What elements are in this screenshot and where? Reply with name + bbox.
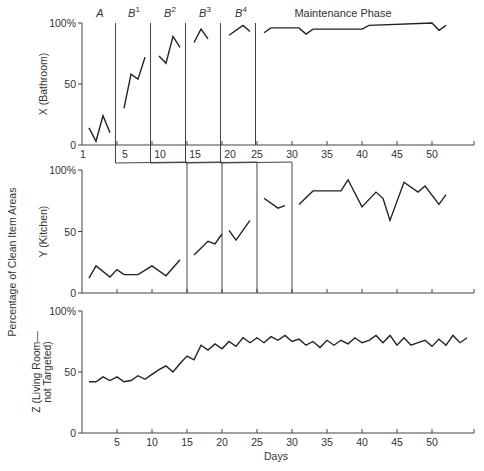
data-series-B1 — [194, 234, 222, 255]
x-tick-label: 45 — [391, 436, 403, 448]
phase-label: Maintenance Phase — [294, 7, 391, 19]
x-tick-label: 30 — [286, 148, 298, 160]
y-tick-label: 100% — [49, 305, 76, 317]
y-tick-label: 0 — [70, 287, 76, 299]
phase-label: B3 — [199, 5, 211, 19]
data-series-Maintenance — [299, 180, 446, 221]
data-series-B3 — [194, 29, 208, 42]
panel-label: Y (Kitchen) — [37, 206, 49, 258]
x-tick-label: 20 — [216, 436, 228, 448]
x-tick-label: 25 — [251, 148, 263, 160]
y-tick-label: 50 — [64, 366, 76, 378]
data-series-all — [89, 335, 467, 381]
x-tick-label: 50 — [426, 436, 438, 448]
data-series-B4 — [229, 25, 250, 35]
x-axis-label: Days — [264, 450, 288, 462]
x-tick-label: 5 — [122, 148, 128, 160]
data-series-B3 — [264, 198, 285, 208]
x-tick-label: 40 — [356, 148, 368, 160]
panel-z-living-room: 050100%Z (Living Room—not Targeted)51015… — [30, 305, 474, 448]
x-tick-label: 20 — [224, 148, 236, 160]
phase-label: A — [95, 7, 103, 19]
x-tick-label: 50 — [426, 148, 438, 160]
panel-label: not Targeted) — [41, 341, 53, 403]
phase-label: B4 — [235, 5, 247, 19]
shared-y-axis-label: Percentage of Clean Item Areas — [6, 188, 18, 337]
panel-x-bathroom: 050100%X (Bathroom)15101520253035404550A… — [37, 5, 474, 293]
y-tick-label: 50 — [64, 226, 76, 238]
phase-label: B2 — [164, 5, 176, 19]
x-tick-label: 15 — [181, 436, 193, 448]
x-tick-label: 15 — [189, 148, 201, 160]
data-series-Maintenance — [264, 23, 446, 34]
x-tick-label: 1 — [80, 148, 86, 160]
data-series-A — [89, 116, 110, 142]
x-tick-label: 10 — [154, 148, 166, 160]
multiple-baseline-chart: 050100%X (Bathroom)15101520253035404550A… — [0, 0, 484, 471]
x-tick-label: 30 — [286, 436, 298, 448]
panel-label: X (Bathroom) — [37, 53, 49, 115]
data-series-B2 — [159, 36, 180, 63]
data-series-B1 — [124, 57, 145, 108]
x-tick-label: 5 — [114, 436, 120, 448]
y-tick-label: 50 — [64, 78, 76, 90]
y-tick-label: 0 — [70, 139, 76, 151]
x-tick-label: 45 — [391, 148, 403, 160]
panel-y-kitchen: 050100%Y (Kitchen) — [37, 164, 474, 299]
y-tick-label: 100% — [49, 17, 76, 29]
x-tick-label: 35 — [321, 436, 333, 448]
y-tick-label: 100% — [49, 164, 76, 176]
x-tick-label: 10 — [146, 436, 158, 448]
data-series-A — [89, 260, 180, 278]
x-tick-label: 40 — [356, 436, 368, 448]
phase-label: B1 — [128, 5, 140, 19]
x-tick-label: 35 — [321, 148, 333, 160]
data-series-B2 — [229, 220, 250, 240]
y-tick-label: 0 — [70, 427, 76, 439]
x-tick-label: 25 — [251, 436, 263, 448]
